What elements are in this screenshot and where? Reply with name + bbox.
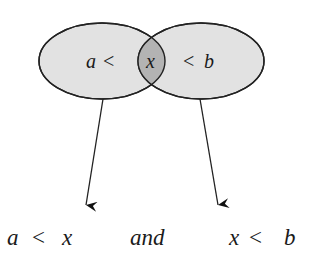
intersection-label: x [145,50,155,72]
right-set-label-var: b [204,50,214,72]
svg-text:x: x [61,225,73,250]
svg-text:x: x [228,225,240,250]
left-expression: a < x [7,225,73,250]
svg-text:<: < [249,225,262,250]
left-set-label-op: < [103,50,114,72]
left-set-label-var: a [86,50,96,72]
svg-text:a: a [7,225,19,250]
right-set-label-op: < [183,50,194,72]
right-arrow [200,99,218,205]
svg-text:<: < [32,225,45,250]
and-connector: and [130,225,165,250]
left-arrow [86,99,103,205]
venn-diagram: a < x < b a < x and x < b [0,0,314,255]
right-expression: x < b [228,225,296,250]
svg-text:b: b [284,225,296,250]
